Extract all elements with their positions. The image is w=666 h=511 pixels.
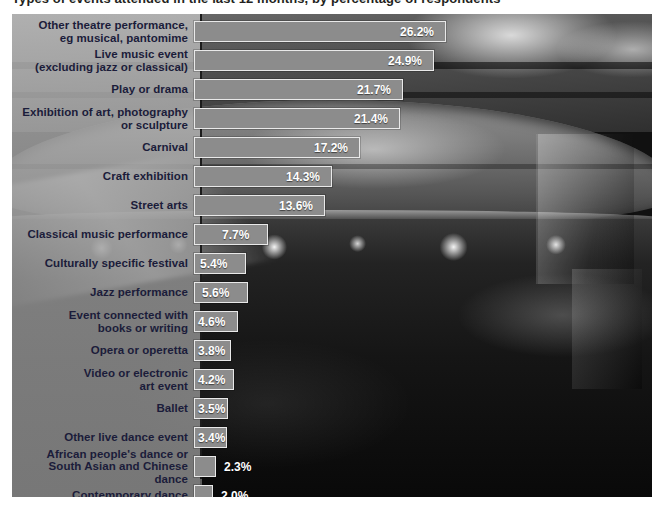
bar-value-label: 3.5% xyxy=(198,402,225,416)
bar-row: Culturally specific festival5.4% xyxy=(12,249,652,278)
bar-category-label-line: Exhibition of art, photography xyxy=(12,106,188,119)
bar-category-label-line: books or writing xyxy=(12,322,188,335)
bar-value-label: 7.7% xyxy=(222,228,249,242)
bar-category-label: Street arts xyxy=(12,199,194,212)
bar-track: 2.0% xyxy=(194,481,652,497)
bar-category-label: Ballet xyxy=(12,402,194,415)
bar-category-label-line: Carnival xyxy=(12,141,188,154)
bar-category-label: Classical music performance xyxy=(12,228,194,241)
bar-track: 5.4% xyxy=(194,249,652,278)
bar-category-label: Exhibition of art, photographyor sculptu… xyxy=(12,106,194,131)
bar-row: Street arts13.6% xyxy=(12,191,652,220)
bar-category-label-line: Classical music performance xyxy=(12,228,188,241)
bar-value-label: 21.7% xyxy=(357,83,391,97)
bar-category-label: Contemporary dance xyxy=(12,489,194,497)
bar-value-label: 24.9% xyxy=(388,54,422,68)
bar-category-label-line: Contemporary dance xyxy=(12,489,188,497)
bar-category-label-line: Jazz performance xyxy=(12,286,188,299)
bar-value-label: 2.3% xyxy=(224,460,251,474)
bar-track: 3.4% xyxy=(194,423,652,452)
bar-row: Jazz performance5.6% xyxy=(12,278,652,307)
bar-category-label: Other live dance event xyxy=(12,431,194,444)
bar-track: 13.6% xyxy=(194,191,652,220)
bar-track: 21.7% xyxy=(194,75,652,104)
bar-row: Classical music performance7.7% xyxy=(12,220,652,249)
bar-category-label: Jazz performance xyxy=(12,286,194,299)
bar-row: Contemporary dance2.0% xyxy=(12,481,652,497)
bar-category-label-line: African people's dance or xyxy=(12,448,188,461)
bar-category-label-line: Ballet xyxy=(12,402,188,415)
bar-value-label: 26.2% xyxy=(400,25,434,39)
bar-row: Video or electronicart event4.2% xyxy=(12,365,652,394)
bar-track: 24.9% xyxy=(194,46,652,75)
bar-category-label-line: Other theatre performance, xyxy=(12,19,188,32)
bar-value-label: 17.2% xyxy=(314,141,348,155)
bar-track: 2.3% xyxy=(194,452,652,481)
bar-value-label: 14.3% xyxy=(286,170,320,184)
bar-category-label: Other theatre performance,eg musical, pa… xyxy=(12,19,194,44)
bar-value-label: 21.4% xyxy=(354,112,388,126)
bar-value-label: 3.8% xyxy=(198,344,225,358)
bar-track: 7.7% xyxy=(194,220,652,249)
bar-track: 3.5% xyxy=(194,394,652,423)
bar-row: Play or drama21.7% xyxy=(12,75,652,104)
bar-category-label-line: Other live dance event xyxy=(12,431,188,444)
bar-category-label-line: Video or electronic xyxy=(12,367,188,380)
bar-category-label-line: Live music event xyxy=(12,48,188,61)
bar-category-label-line: (excluding jazz or classical) xyxy=(12,61,188,74)
bar-row: Live music event(excluding jazz or class… xyxy=(12,46,652,75)
page-title: Types of events attended in the last 12 … xyxy=(12,0,652,9)
bar-track: 3.8% xyxy=(194,336,652,365)
bar-category-label: Culturally specific festival xyxy=(12,257,194,270)
bar-category-label: Event connected withbooks or writing xyxy=(12,309,194,334)
bar-row: Opera or operetta3.8% xyxy=(12,336,652,365)
bar-row: Exhibition of art, photographyor sculptu… xyxy=(12,104,652,133)
bar-category-label-line: Street arts xyxy=(12,199,188,212)
bar[interactable] xyxy=(194,485,213,497)
bar-value-label: 5.6% xyxy=(202,286,229,300)
bar-category-label: African people's dance orSouth Asian and… xyxy=(12,448,194,486)
bar-chart-plot: Other theatre performance,eg musical, pa… xyxy=(12,14,652,497)
bar-category-label-line: eg musical, pantomime xyxy=(12,32,188,45)
bar-value-label: 3.4% xyxy=(198,431,225,445)
bar-track: 14.3% xyxy=(194,162,652,191)
bar-value-label: 13.6% xyxy=(279,199,313,213)
bar-category-label-line: Play or drama xyxy=(12,83,188,96)
bar-row: Carnival17.2% xyxy=(12,133,652,162)
bar-category-label-line: or sculpture xyxy=(12,119,188,132)
bar-category-label-line: Craft exhibition xyxy=(12,170,188,183)
bar-category-label: Play or drama xyxy=(12,83,194,96)
bar-category-label-line: Culturally specific festival xyxy=(12,257,188,270)
bar-track: 17.2% xyxy=(194,133,652,162)
bar-track: 26.2% xyxy=(194,17,652,46)
bar-row: African people's dance orSouth Asian and… xyxy=(12,452,652,481)
chart-panel: Other theatre performance,eg musical, pa… xyxy=(12,14,652,497)
bar-track: 21.4% xyxy=(194,104,652,133)
bar-track: 4.6% xyxy=(194,307,652,336)
bar-row: Other theatre performance,eg musical, pa… xyxy=(12,17,652,46)
bar-category-label: Craft exhibition xyxy=(12,170,194,183)
bar-value-label: 4.2% xyxy=(198,373,225,387)
bar-track: 4.2% xyxy=(194,365,652,394)
bar-category-label: Video or electronicart event xyxy=(12,367,194,392)
bar-value-label: 5.4% xyxy=(200,257,227,271)
bar-value-label: 4.6% xyxy=(198,315,225,329)
bar-row: Ballet3.5% xyxy=(12,394,652,423)
bar-category-label: Carnival xyxy=(12,141,194,154)
bar-row: Craft exhibition14.3% xyxy=(12,162,652,191)
bar-category-label-line: art event xyxy=(12,380,188,393)
bar-value-label: 2.0% xyxy=(221,489,248,498)
bar-row: Event connected withbooks or writing4.6% xyxy=(12,307,652,336)
bar-category-label: Opera or operetta xyxy=(12,344,194,357)
bar-category-label-line: Event connected with xyxy=(12,309,188,322)
bar-track: 5.6% xyxy=(194,278,652,307)
bar-category-label: Live music event(excluding jazz or class… xyxy=(12,48,194,73)
bar[interactable] xyxy=(194,456,216,477)
bar-category-label-line: Opera or operetta xyxy=(12,344,188,357)
